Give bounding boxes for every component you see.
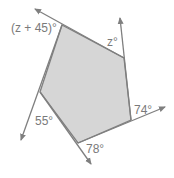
angle-label-top-left: (z + 45)° [11,21,57,35]
angle-label-bottom-right: 74° [134,103,152,117]
pentagon-diagram: (z + 45)° z° 74° 78° 55° [0,0,174,178]
angle-label-bottom: 78° [86,142,104,156]
angle-label-left: 55° [35,114,53,128]
angle-label-top-right: z° [107,35,118,49]
